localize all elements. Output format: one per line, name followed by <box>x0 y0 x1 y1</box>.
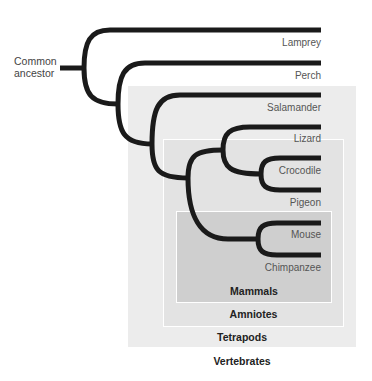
branch-perch <box>118 63 321 104</box>
branch-node3 <box>152 144 188 178</box>
branch-node5 <box>223 150 261 174</box>
taxon-label-perch: Perch <box>295 70 321 81</box>
taxon-label-mouse: Mouse <box>291 229 321 240</box>
clade-label-vertebrates: Vertebrates <box>128 355 356 367</box>
branch-chimpanzee <box>258 239 321 255</box>
ancestor-label-line1: Common <box>14 55 57 67</box>
taxon-label-chimpanzee: Chimpanzee <box>265 262 321 273</box>
common-ancestor-label: Common ancestor <box>14 55 57 79</box>
taxon-label-lizard: Lizard <box>294 133 321 144</box>
ancestor-label-line2: ancestor <box>14 67 57 79</box>
taxon-label-crocodile: Crocodile <box>279 165 321 176</box>
branch-node1 <box>84 68 118 104</box>
taxon-label-pigeon: Pigeon <box>290 197 321 208</box>
branch-node2 <box>118 104 152 144</box>
branch-node4 <box>188 150 223 178</box>
clade-label-tetrapods: Tetrapods <box>128 331 356 343</box>
clade-label-mammals: Mammals <box>176 285 332 297</box>
taxon-label-salamander: Salamander <box>267 102 321 113</box>
clade-label-amniotes: Amniotes <box>163 308 344 320</box>
taxon-label-lamprey: Lamprey <box>282 37 321 48</box>
branch-node-mammals <box>188 178 258 239</box>
branch-pigeon <box>261 174 321 190</box>
